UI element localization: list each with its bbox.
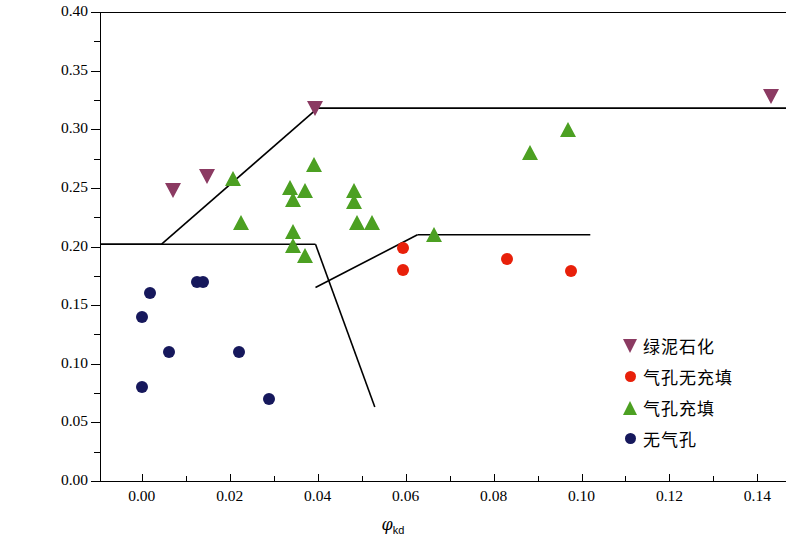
plot-top-border	[100, 12, 786, 13]
data-point	[197, 276, 209, 288]
y-tick-label: 0.10	[18, 355, 88, 371]
data-point	[285, 192, 301, 207]
y-tick-minor	[94, 452, 100, 453]
legend-item[interactable]: 气孔充填	[617, 392, 777, 423]
x-tick-label: 0.14	[727, 487, 786, 505]
data-point	[306, 157, 322, 172]
x-tick-minor	[274, 476, 275, 482]
data-point	[565, 265, 577, 277]
y-tick	[91, 305, 100, 306]
y-tick-label: 0.35	[18, 62, 88, 78]
x-tick	[582, 474, 583, 482]
data-point	[307, 101, 323, 116]
x-tick	[142, 474, 143, 482]
y-tick-label: 0.25	[18, 179, 88, 195]
y-tick-label: 0.00	[18, 472, 88, 488]
data-point	[225, 171, 241, 186]
legend-item[interactable]: 绿泥石化	[617, 330, 777, 361]
x-tick-label: 0.00	[112, 487, 172, 505]
x-tick-minor	[625, 476, 626, 482]
legend-label: 绿泥石化	[643, 333, 715, 358]
x-tick-label: 0.12	[639, 487, 699, 505]
data-point	[346, 194, 362, 209]
y-tick	[91, 129, 100, 130]
x-tick-label: 0.04	[288, 487, 348, 505]
data-point	[233, 215, 249, 230]
y-tick-minor	[94, 217, 100, 218]
y-tick	[91, 364, 100, 365]
y-tick-label: 0.05	[18, 413, 88, 429]
y-tick-minor	[94, 159, 100, 160]
x-tick-label: 0.08	[464, 487, 524, 505]
data-point	[297, 248, 313, 263]
x-axis-title: φkd	[0, 515, 786, 536]
x-tick	[230, 474, 231, 482]
x-tick-label: 0.06	[376, 487, 436, 505]
x-axis-line	[100, 481, 786, 482]
y-axis-line	[100, 12, 101, 482]
data-point	[144, 287, 156, 299]
y-tick	[91, 481, 100, 482]
legend-label: 气孔充填	[643, 395, 715, 420]
data-point	[364, 215, 380, 230]
legend: 绿泥石化气孔无充填气孔充填无气孔	[617, 330, 777, 454]
x-tick	[669, 474, 670, 482]
data-point	[426, 227, 442, 242]
y-tick	[91, 12, 100, 13]
x-tick-minor	[450, 476, 451, 482]
data-point	[165, 183, 181, 198]
y-tick-minor	[94, 100, 100, 101]
x-axis-title-subscript: kd	[393, 524, 405, 536]
y-tick-label: 0.30	[18, 120, 88, 136]
x-tick	[494, 474, 495, 482]
x-tick-minor	[713, 476, 714, 482]
y-tick-minor	[94, 393, 100, 394]
x-tick	[757, 474, 758, 482]
x-tick-label: 0.10	[552, 487, 612, 505]
x-tick	[406, 474, 407, 482]
x-tick-minor	[538, 476, 539, 482]
data-point	[136, 381, 148, 393]
data-point	[522, 145, 538, 160]
y-axis-title: CNL(体积比)	[14, 0, 42, 40]
y-tick	[91, 188, 100, 189]
y-tick	[91, 422, 100, 423]
data-point	[763, 89, 779, 104]
y-tick-label: 0.15	[18, 296, 88, 312]
chart-figure: 0.000.050.100.150.200.250.300.350.40 0.0…	[0, 0, 786, 548]
legend-item[interactable]: 气孔无充填	[617, 361, 777, 392]
y-tick	[91, 247, 100, 248]
y-tick-minor	[94, 276, 100, 277]
legend-label: 气孔无充填	[643, 364, 733, 389]
legend-label: 无气孔	[643, 426, 697, 451]
y-tick	[91, 71, 100, 72]
data-point	[199, 169, 215, 184]
y-tick-label: 0.20	[18, 238, 88, 254]
x-tick-label: 0.02	[200, 487, 260, 505]
legend-item[interactable]: 无气孔	[617, 423, 777, 454]
x-tick	[318, 474, 319, 482]
data-point	[560, 122, 576, 137]
y-tick-minor	[94, 334, 100, 335]
y-tick-minor	[94, 41, 100, 42]
data-point	[285, 224, 301, 239]
x-tick-minor	[186, 476, 187, 482]
data-point	[136, 311, 148, 323]
x-tick-minor	[362, 476, 363, 482]
